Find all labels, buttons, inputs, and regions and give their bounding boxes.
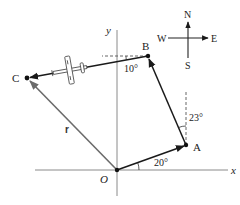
point-label-b: B	[142, 40, 149, 52]
vector-diagram: x y O 20° 23° 10° A B C r N S W E	[0, 0, 240, 205]
point-c	[25, 76, 30, 81]
point-label-c: C	[12, 72, 19, 84]
point-b	[146, 54, 150, 58]
resultant-label-r: r	[65, 124, 69, 135]
angle-label-20: 20°	[154, 157, 168, 168]
point-o	[115, 168, 119, 172]
compass-south-label: S	[185, 60, 191, 71]
point-label-a: A	[193, 141, 201, 153]
x-axis-label: x	[230, 164, 236, 176]
vector-a-to-b	[149, 59, 186, 145]
angle-arc-23	[179, 126, 186, 128]
angle-label-10: 10°	[124, 63, 138, 74]
vector-o-to-a	[117, 146, 184, 170]
vector-r-o-to-c	[30, 81, 117, 170]
y-axis-label: y	[105, 24, 111, 36]
compass-rose: N S W E	[157, 9, 217, 71]
compass-east-label: E	[211, 33, 217, 44]
airplane-icon	[50, 53, 89, 87]
angle-arc-20	[138, 163, 139, 171]
compass-north-label: N	[184, 9, 191, 20]
angle-label-23: 23°	[189, 112, 203, 123]
point-a	[184, 143, 188, 147]
origin-label: O	[100, 173, 108, 185]
compass-west-label: W	[157, 33, 167, 44]
